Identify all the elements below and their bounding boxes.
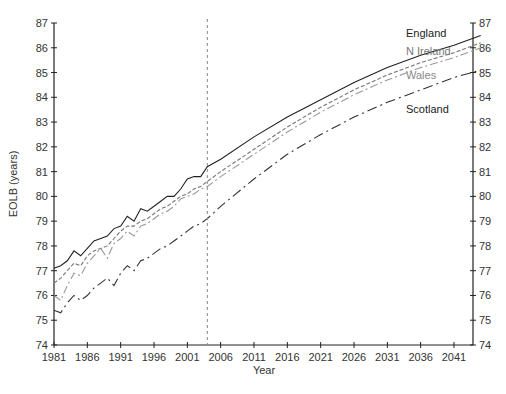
label-england: England bbox=[406, 27, 446, 39]
y-tick-label-left: 79 bbox=[36, 215, 48, 227]
y-tick-label-right: 85 bbox=[479, 67, 491, 79]
x-tick-label: 2001 bbox=[175, 351, 199, 363]
x-tick-label: 1991 bbox=[108, 351, 132, 363]
series-line-wales bbox=[54, 48, 481, 301]
x-tick-label: 2031 bbox=[375, 351, 399, 363]
y-tick-label-right: 76 bbox=[479, 289, 491, 301]
y-tick-label-right: 83 bbox=[479, 116, 491, 128]
x-tick-label: 2021 bbox=[308, 351, 332, 363]
label-scotland: Scotland bbox=[406, 103, 449, 115]
y-tick-label-right: 80 bbox=[479, 190, 491, 202]
y-tick-label-left: 74 bbox=[36, 339, 48, 351]
y-tick-label-right: 79 bbox=[479, 215, 491, 227]
y-tick-label-left: 84 bbox=[36, 91, 48, 103]
x-tick-label: 2011 bbox=[242, 351, 266, 363]
y-tick-label-left: 87 bbox=[36, 17, 48, 29]
y-tick-label-left: 78 bbox=[36, 240, 48, 252]
y-axis-title: EOLB (years) bbox=[7, 151, 19, 218]
y-tick-label-right: 74 bbox=[479, 339, 491, 351]
x-tick-label: 1996 bbox=[142, 351, 166, 363]
x-tick-label: 2036 bbox=[408, 351, 432, 363]
x-tick-label: 2006 bbox=[208, 351, 232, 363]
y-tick-label-right: 78 bbox=[479, 240, 491, 252]
x-tick-label: 1986 bbox=[75, 351, 99, 363]
y-tick-label-left: 86 bbox=[36, 42, 48, 54]
y-tick-label-left: 77 bbox=[36, 265, 48, 277]
y-tick-label-left: 82 bbox=[36, 141, 48, 153]
y-tick-label-left: 83 bbox=[36, 116, 48, 128]
y-tick-label-left: 81 bbox=[36, 166, 48, 178]
y-tick-label-right: 84 bbox=[479, 91, 491, 103]
label-nireland: N Ireland bbox=[406, 45, 451, 57]
x-tick-label: 1981 bbox=[42, 351, 66, 363]
y-tick-label-right: 87 bbox=[479, 17, 491, 29]
y-tick-label-left: 85 bbox=[36, 67, 48, 79]
y-tick-label-left: 76 bbox=[36, 289, 48, 301]
y-tick-label-right: 86 bbox=[479, 42, 491, 54]
y-tick-label-right: 75 bbox=[479, 314, 491, 326]
y-tick-label-right: 77 bbox=[479, 265, 491, 277]
y-tick-label-right: 82 bbox=[479, 141, 491, 153]
y-tick-label-left: 80 bbox=[36, 190, 48, 202]
y-tick-label-left: 75 bbox=[36, 314, 48, 326]
label-wales: Wales bbox=[406, 69, 437, 81]
x-axis-title: Year bbox=[253, 364, 276, 376]
x-tick-label: 2016 bbox=[275, 351, 299, 363]
x-tick-label: 2041 bbox=[442, 351, 466, 363]
y-tick-label-right: 81 bbox=[479, 166, 491, 178]
life-expectancy-chart: 7474757576767777787879798080818182828383… bbox=[0, 0, 506, 394]
x-tick-label: 2026 bbox=[342, 351, 366, 363]
